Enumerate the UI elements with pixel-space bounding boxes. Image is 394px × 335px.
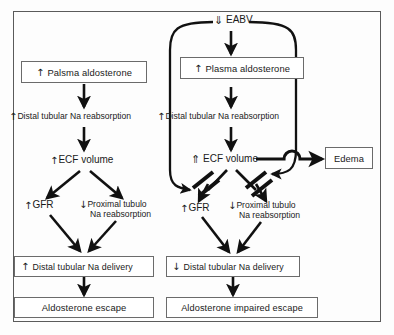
edema-label: Edema	[334, 153, 364, 164]
up-arrow-icon: ↑	[157, 111, 165, 122]
left-distal-reabsorption-label: Distal tubular Na reabsorption	[17, 111, 131, 121]
right-box-plasma-aldosterone: ↑ Plasma aldosterone	[180, 57, 304, 79]
right-outcome-label: Aldosterone impaired escape	[181, 303, 303, 313]
left-box-distal-delivery: ↑ Distal tubular Na delivery	[14, 256, 154, 277]
right-gfr: ↑GFR	[180, 202, 210, 214]
right-eabv-label: EABV	[226, 14, 253, 25]
right-distal-reabsorption: ↑Distal tubular Na reabsorption	[157, 111, 279, 121]
right-plasma-aldosterone-label: Plasma aldosterone	[205, 63, 290, 74]
right-distal-reabsorption-label: Distal tubular Na reabsorption	[165, 111, 279, 121]
double-down-arrow-icon: ⇓	[214, 14, 223, 27]
up-arrow-icon: ↑	[180, 203, 188, 214]
left-gfr: ↑GFR	[24, 199, 54, 211]
up-arrow-icon: ↑	[21, 262, 29, 272]
up-arrow-icon: ↑	[36, 68, 44, 78]
figure-root: ↑ Palsma aldosterone ↑Distal tubular Na …	[0, 0, 394, 335]
right-eabv: ⇓ EABV	[214, 14, 253, 26]
double-up-arrow-icon: ⇑	[191, 153, 200, 166]
up-arrow-icon: ↑	[194, 64, 202, 74]
down-arrow-icon: ↓	[79, 199, 87, 210]
box-edema: Edema	[325, 147, 373, 169]
left-box-plasma-aldosterone: ↑ Palsma aldosterone	[21, 61, 147, 83]
down-arrow-icon: ↓	[228, 200, 236, 211]
right-ecf-volume: ⇑ ECF volume	[191, 153, 258, 165]
up-arrow-icon: ↑	[24, 200, 32, 211]
left-ecf-volume: ↑ECF volume	[50, 154, 113, 166]
left-distal-reabsorption: ↑Distal tubular Na reabsorption	[9, 111, 131, 121]
left-ecf-volume-label: ECF volume	[58, 154, 113, 165]
right-proximal-line2: Na reabsorption	[239, 210, 300, 220]
left-plasma-aldosterone-label: Palsma aldosterone	[47, 67, 132, 78]
left-proximal-reabsorption: ↓Proximal tubulo Na reabsorption	[79, 199, 151, 220]
right-box-distal-delivery: ↓ Distal tubular Na delivery	[166, 256, 300, 277]
left-distal-delivery-label: Distal tubular Na delivery	[32, 262, 132, 272]
right-proximal-line1: Proximal tubulo	[236, 200, 295, 210]
left-box-outcome: Aldosterone escape	[14, 297, 154, 318]
left-proximal-line2: Na reabsorption	[90, 209, 151, 219]
right-box-outcome: Aldosterone impaired escape	[166, 297, 318, 318]
up-arrow-icon: ↑	[9, 111, 17, 122]
left-outcome-label: Aldosterone escape	[42, 302, 127, 313]
up-arrow-icon: ↑	[50, 155, 58, 166]
left-gfr-label: GFR	[32, 199, 53, 210]
right-ecf-volume-label: ECF volume	[203, 153, 258, 164]
right-proximal-reabsorption: ↓Proximal tubulo Na reabsorption	[228, 200, 300, 221]
right-distal-delivery-label: Distal tubular Na delivery	[183, 262, 283, 272]
left-proximal-line1: Proximal tubulo	[87, 199, 146, 209]
down-arrow-icon: ↓	[172, 262, 180, 272]
right-gfr-label: GFR	[188, 202, 209, 213]
